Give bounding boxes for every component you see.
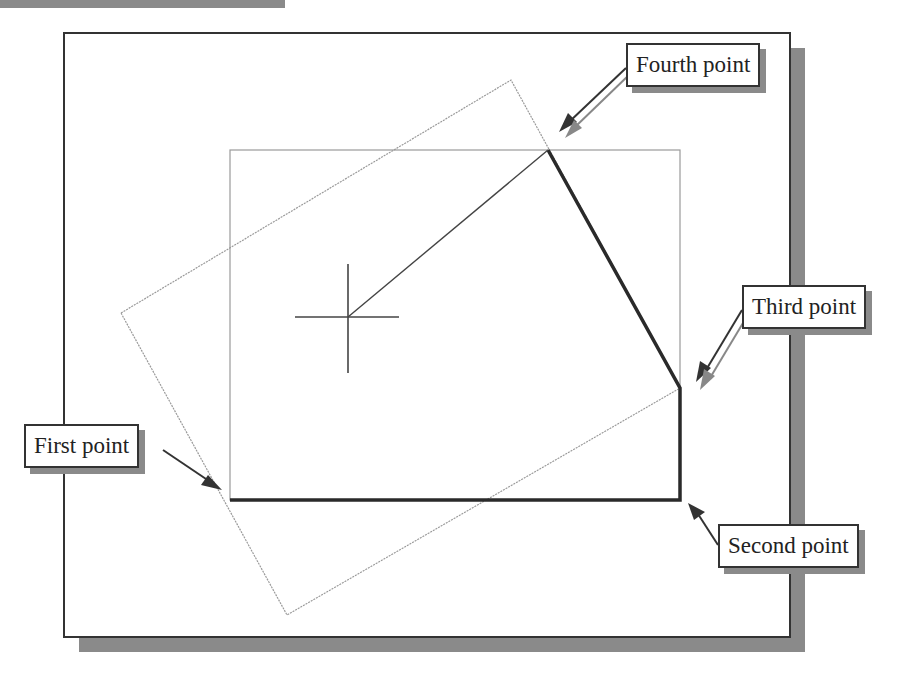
callout-second-point: Second point — [718, 524, 859, 568]
callout-label: Third point — [752, 294, 856, 319]
drawing-frame — [64, 33, 790, 637]
callout-fourth-point: Fourth point — [626, 43, 760, 87]
callout-third-point: Third point — [742, 285, 866, 329]
callout-label: First point — [34, 433, 129, 458]
callout-first-point: First point — [24, 424, 139, 468]
drawing-canvas — [0, 0, 917, 678]
callout-label: Second point — [728, 533, 849, 558]
callout-label: Fourth point — [636, 52, 750, 77]
